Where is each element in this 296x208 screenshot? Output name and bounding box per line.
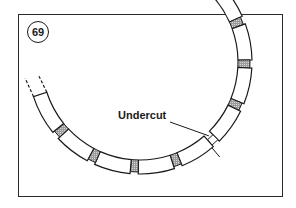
continuation-dash: [25, 78, 33, 96]
depth-arrow: [212, 148, 220, 157]
mica-separator: [238, 60, 250, 68]
commutator-segment: [232, 24, 252, 60]
commutator-segment: [95, 152, 132, 174]
commutator-segment: [33, 92, 63, 132]
commutator-diagram: [0, 0, 296, 208]
commutator-segment: [231, 67, 252, 103]
continuation-dash: [39, 76, 47, 92]
commutator-segment: [138, 155, 174, 174]
commutator-segment: [177, 136, 213, 166]
callout-leader: [170, 122, 209, 136]
